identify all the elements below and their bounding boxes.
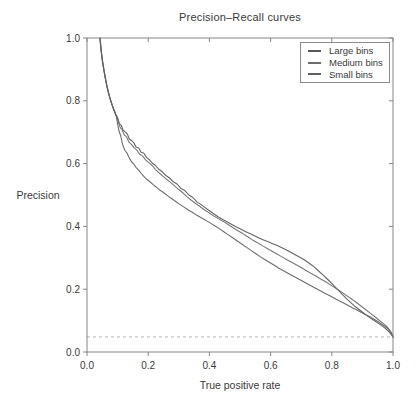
y-axis-label: Precision	[8, 189, 68, 201]
y-tick-label: 1.0	[66, 33, 80, 44]
x-tick-label: 0.2	[141, 360, 155, 371]
y-tick-label: 0.8	[66, 95, 80, 106]
legend: Large bins Medium bins Small bins	[300, 42, 390, 83]
x-tick-label: 0.0	[80, 360, 94, 371]
legend-label: Medium bins	[329, 57, 383, 68]
legend-entry-small-bins: Small bins	[301, 68, 389, 80]
legend-line-swatch	[308, 62, 321, 64]
x-tick-label: 0.6	[264, 360, 278, 371]
y-tick-label: 0.2	[66, 284, 80, 295]
legend-label: Small bins	[329, 69, 373, 80]
x-tick-label: 0.8	[325, 360, 339, 371]
legend-line-swatch	[308, 50, 321, 52]
x-axis-label: True positive rate	[87, 379, 393, 391]
x-tick-label: 1.0	[386, 360, 400, 371]
legend-entry-medium-bins: Medium bins	[301, 57, 389, 69]
legend-entry-large-bins: Large bins	[301, 45, 389, 57]
y-tick-label: 0.0	[66, 347, 80, 358]
y-tick-label: 0.4	[66, 221, 80, 232]
precision-recall-figure: Precision–Recall curves 0.00.20.40.60.81…	[0, 0, 418, 404]
x-tick-label: 0.4	[202, 360, 216, 371]
legend-line-swatch	[308, 73, 321, 75]
y-tick-label: 0.6	[66, 158, 80, 169]
legend-label: Large bins	[329, 45, 373, 56]
